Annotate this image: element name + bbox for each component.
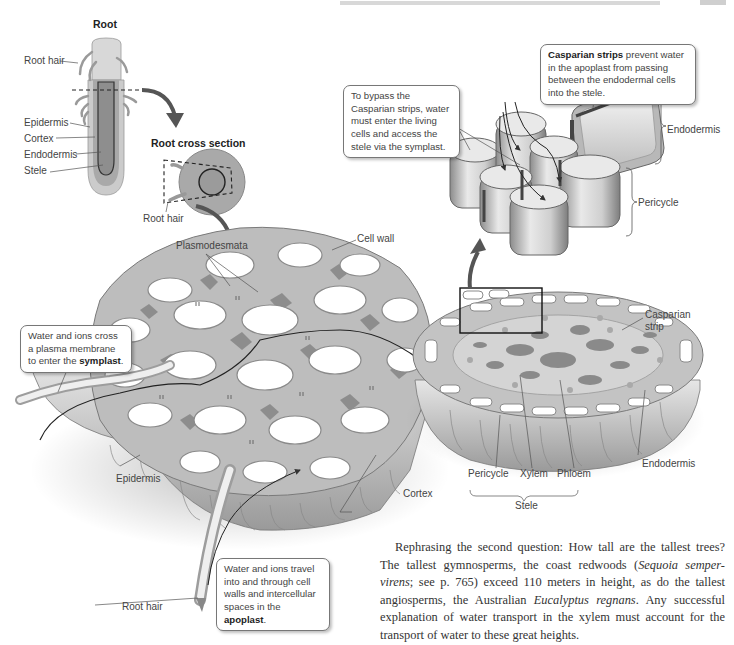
callout-symplast: Water and ions cross a plasma membrane t… xyxy=(20,325,132,373)
label-root-hair-cross: Root hair xyxy=(143,213,184,225)
callout-bypass-casparian: To bypass the Casparian strips, water mu… xyxy=(343,85,460,158)
label-epidermis: Epidermis xyxy=(116,473,160,485)
label-root-hair-bottom: Root hair xyxy=(122,601,163,613)
cortex-block xyxy=(30,227,450,550)
longitudinal-root xyxy=(72,38,142,195)
label-cell-wall: Cell wall xyxy=(357,233,394,245)
callout-casparian-strips: Casparian strips prevent water in the ap… xyxy=(540,44,696,105)
callout-apoplast: Water and ions travel into and through c… xyxy=(216,558,330,631)
label-xylem: Xylem xyxy=(520,468,548,480)
label-epidermis-top: Epidermis xyxy=(24,117,68,129)
endodermis-detail xyxy=(450,88,666,255)
cross-section-title: Root cross section xyxy=(151,137,246,149)
label-cortex-top: Cortex xyxy=(24,133,53,145)
label-pericycle-detail: Pericycle xyxy=(638,197,679,209)
label-endodermis-top: Endodermis xyxy=(24,149,77,161)
root-title: Root xyxy=(93,18,117,30)
root-cross-section xyxy=(164,149,245,215)
label-root-hair-top: Root hair xyxy=(24,55,65,67)
label-phloem: Phloem xyxy=(557,468,591,480)
label-cortex: Cortex xyxy=(403,488,432,500)
body-text: Rephrasing the second question: How tall… xyxy=(380,539,725,645)
label-endodermis-stele: Endodermis xyxy=(642,458,695,470)
paragraph: Rephrasing the second question: How tall… xyxy=(380,539,725,645)
label-plasmodesmata: Plasmodesmata xyxy=(176,240,248,252)
label-casparian-strip: Casparian strip xyxy=(645,309,695,332)
label-stele-top: Stele xyxy=(24,165,47,177)
label-stele: Stele xyxy=(515,500,538,512)
label-endodermis-detail: Endodermis xyxy=(667,124,720,136)
label-pericycle: Pericycle xyxy=(468,468,509,480)
